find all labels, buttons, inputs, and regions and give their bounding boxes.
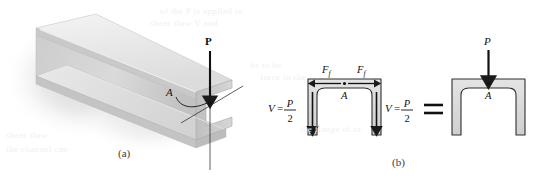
friction-force-label-right: Ff (356, 64, 366, 78)
caption-a: (a) (118, 147, 131, 160)
shear-equals-right: = (394, 102, 400, 114)
shear-var-right: V (385, 102, 393, 114)
shear-denominator-left: 2 (287, 113, 292, 124)
shear-numerator-right: P (403, 98, 411, 109)
point-A-marker (208, 101, 212, 105)
point-A-marker-right (487, 82, 490, 85)
channel-section-outline-right (452, 79, 525, 135)
shear-numerator-left: P (286, 98, 294, 109)
channel-section-outline-left (308, 79, 381, 135)
shear-denominator-right: 2 (404, 113, 409, 124)
combined-channel-right: P A (452, 35, 525, 135)
point-label-A-left: A (340, 90, 348, 101)
caption-b: (b) (392, 156, 405, 169)
figure-shear-center-channel: of the P is applied to shear flow V and … (0, 0, 533, 183)
shear-equals-left: = (277, 102, 283, 114)
panel-b-free-body-diagrams: A Ff Ff V = P 2 (268, 35, 525, 169)
equivalence-equals-sign: = (424, 105, 443, 113)
point-label-A-right: A (484, 90, 492, 101)
shear-equation-right: V = P 2 (385, 98, 413, 124)
load-label-P-combined: P (483, 35, 491, 47)
point-A-marker-left (343, 82, 346, 85)
friction-force-label-left: Ff (321, 64, 331, 78)
shear-var-left: V (268, 102, 276, 114)
free-body-channel-left: A Ff Ff V = P 2 (268, 64, 413, 135)
load-label-P: P (205, 35, 212, 47)
panel-a-3d-beam: P A (a) (2, 14, 243, 170)
figure-svg: P A (a) A Ff (0, 0, 533, 183)
shear-equation-left: V = P 2 (268, 98, 296, 124)
point-label-A: A (165, 86, 173, 98)
